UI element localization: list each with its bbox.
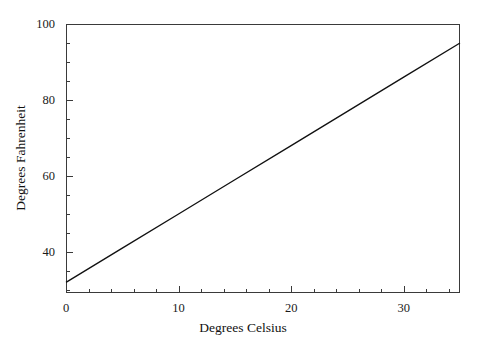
y-axis-ticks — [66, 25, 73, 291]
x-tick-label: 0 — [63, 302, 69, 315]
chart-figure: 0102030 406080100 Degrees Celsius Degree… — [0, 0, 486, 350]
y-axis-label-container: Degrees Fahrenheit — [10, 0, 32, 350]
x-tick-label: 20 — [285, 302, 298, 315]
x-tick-label: 10 — [172, 302, 185, 315]
y-axis-label: Degrees Fahrenheit — [14, 105, 28, 210]
plot-area — [0, 0, 486, 350]
x-tick-label: 30 — [397, 302, 410, 315]
axis-frame — [66, 24, 460, 293]
x-axis-label: Degrees Celsius — [0, 321, 486, 335]
series-line-celsius-to-fahrenheit — [66, 43, 460, 282]
